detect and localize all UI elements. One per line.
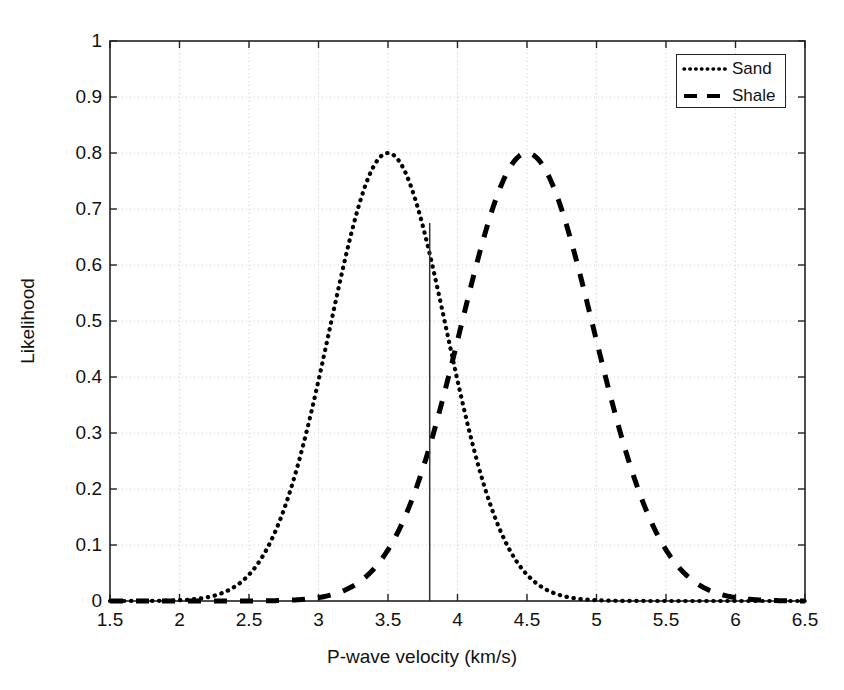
x-tick-label: 2.5	[236, 609, 262, 631]
legend-item-shale: Shale	[677, 82, 787, 109]
y-tick-label: 0.3	[40, 422, 102, 444]
y-tick-label: 1	[40, 30, 102, 52]
y-tick-label: 0.9	[40, 86, 102, 108]
x-tick-label: 2	[174, 609, 185, 631]
legend-item-sand: Sand	[677, 55, 787, 82]
y-tick-label: 0.6	[40, 254, 102, 276]
x-tick-label: 3.5	[375, 609, 401, 631]
x-tick-label: 6.5	[792, 609, 818, 631]
legend-label-shale: Shale	[732, 86, 775, 106]
legend-label-sand: Sand	[732, 59, 772, 79]
x-tick-label: 4.5	[514, 609, 540, 631]
y-tick-label: 0.5	[40, 310, 102, 332]
y-tick-label: 0.2	[40, 478, 102, 500]
x-tick-label: 4	[452, 609, 463, 631]
x-tick-label: 1.5	[97, 609, 123, 631]
x-axis-title: P-wave velocity (km/s)	[0, 646, 844, 668]
x-tick-label: 3	[313, 609, 324, 631]
legend-swatch-sand	[682, 61, 730, 77]
y-tick-label: 0.8	[40, 142, 102, 164]
y-tick-label: 0.7	[40, 198, 102, 220]
legend: Sand Shale	[676, 54, 786, 108]
legend-swatch-shale	[682, 88, 730, 104]
chart-figure: 1.522.533.544.555.566.500.10.20.30.40.50…	[0, 0, 844, 690]
x-tick-label: 5.5	[653, 609, 679, 631]
y-tick-label: 0	[40, 590, 102, 612]
x-tick-label: 6	[730, 609, 741, 631]
y-axis-title: Likelihood	[17, 221, 39, 421]
gridlines	[110, 41, 805, 601]
x-tick-label: 5	[591, 609, 602, 631]
y-tick-label: 0.4	[40, 366, 102, 388]
y-tick-label: 0.1	[40, 534, 102, 556]
